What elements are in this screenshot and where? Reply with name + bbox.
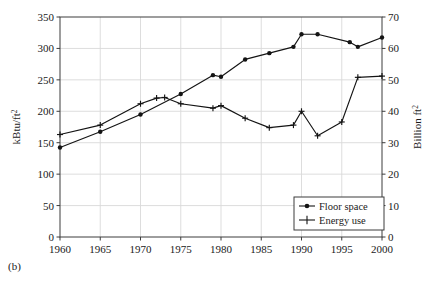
line-chart: 196019651970197519801985199019952000 050… bbox=[0, 0, 435, 284]
y-tick-label-left: 200 bbox=[38, 105, 55, 117]
svg-text:Billion ft2: Billion ft2 bbox=[411, 105, 424, 149]
data-point-marker bbox=[179, 92, 183, 96]
x-tick-label: 1990 bbox=[291, 243, 314, 255]
y-tick-label-right: 20 bbox=[388, 168, 400, 180]
x-tick-label: 1960 bbox=[49, 243, 72, 255]
x-tick-label: 1985 bbox=[250, 243, 273, 255]
y-tick-label-right: 60 bbox=[388, 42, 400, 54]
data-point-marker bbox=[315, 32, 319, 36]
data-point-marker bbox=[58, 145, 62, 149]
y-tick-label-left: 250 bbox=[38, 74, 55, 86]
filled-circle-icon bbox=[305, 204, 310, 209]
y-tick-label-right: 0 bbox=[388, 231, 394, 243]
x-axis-tick-labels: 196019651970197519801985199019952000 bbox=[49, 243, 394, 255]
data-point-marker bbox=[219, 75, 223, 79]
y-tick-label-right: 70 bbox=[388, 11, 400, 23]
data-point-marker bbox=[98, 130, 102, 134]
y-tick-label-left: 50 bbox=[43, 200, 55, 212]
data-point-marker bbox=[291, 45, 295, 49]
data-point-marker bbox=[356, 45, 360, 49]
figure-caption: (b) bbox=[8, 260, 21, 273]
data-point-marker bbox=[380, 35, 384, 39]
svg-text:kBtu/ft2: kBtu/ft2 bbox=[10, 109, 23, 144]
data-point-marker bbox=[138, 112, 142, 116]
x-tick-label: 1995 bbox=[331, 243, 354, 255]
y-tick-label-right: 10 bbox=[388, 200, 400, 212]
y-tick-label-right: 40 bbox=[388, 105, 400, 117]
x-tick-label: 1970 bbox=[130, 243, 153, 255]
figure-container: 196019651970197519801985199019952000 050… bbox=[0, 0, 435, 284]
legend-label-energy-use: Energy use bbox=[319, 215, 366, 226]
y-tick-label-left: 100 bbox=[38, 168, 55, 180]
x-tick-label: 1965 bbox=[89, 243, 112, 255]
y-tick-label-left: 350 bbox=[38, 11, 55, 23]
data-point-marker bbox=[348, 40, 352, 44]
y-tick-label-left: 0 bbox=[49, 231, 55, 243]
data-point-marker bbox=[243, 57, 247, 61]
data-point-marker bbox=[299, 32, 303, 36]
data-point-marker bbox=[267, 51, 271, 55]
y-tick-label-right: 50 bbox=[388, 74, 400, 86]
y-tick-label-left: 150 bbox=[38, 137, 55, 149]
data-point-marker bbox=[211, 73, 215, 77]
y-tick-label-left: 300 bbox=[38, 42, 55, 54]
y-axis-left-title: kBtu/ft2 bbox=[10, 109, 23, 144]
y-axis-right-title: Billion ft2 bbox=[411, 105, 424, 149]
y-tick-label-right: 30 bbox=[388, 137, 400, 149]
x-tick-label: 2000 bbox=[371, 243, 394, 255]
legend-label-floor-space: Floor space bbox=[319, 201, 368, 212]
x-tick-label: 1975 bbox=[170, 243, 193, 255]
chart-legend[interactable]: Floor space Energy use bbox=[294, 197, 384, 230]
x-tick-label: 1980 bbox=[210, 243, 233, 255]
